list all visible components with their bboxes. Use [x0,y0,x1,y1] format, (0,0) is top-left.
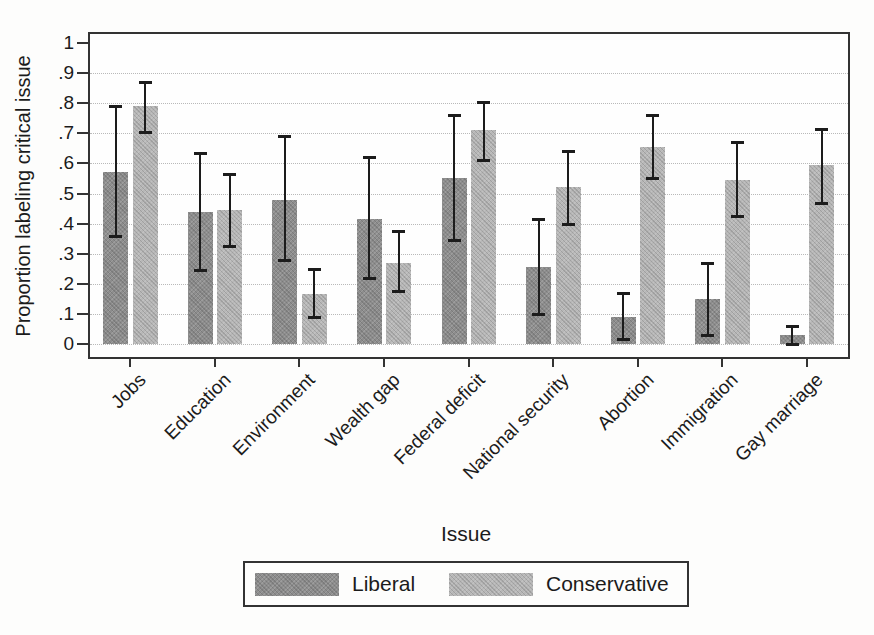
error-bar-liberal [453,115,455,240]
error-bar-conservative [821,129,823,203]
error-bar-cap-bottom [731,215,744,218]
error-bar-cap-bottom [617,338,630,341]
y-tick [77,42,88,44]
plot-area [88,32,850,359]
error-bar-cap-top [109,105,122,108]
x-category-label: Immigration [572,369,742,539]
y-gridline [90,133,848,134]
y-tick-label: .6 [0,152,74,174]
x-tick [552,359,554,367]
y-tick [77,132,88,134]
error-bar-cap-bottom [278,259,291,262]
y-tick [77,193,88,195]
error-bar-cap-bottom [786,343,799,346]
error-bar-liberal [199,153,201,270]
x-category-label: Environment [149,369,319,539]
error-bar-liberal [368,157,370,277]
y-tick-label: .1 [0,303,74,325]
y-tick [77,343,88,345]
error-bar-liberal [538,219,540,314]
y-tick-label: .8 [0,92,74,114]
error-bar-cap-top [448,114,461,117]
error-bar-conservative [229,174,231,246]
error-bar-cap-top [815,128,828,131]
x-category-label: National security [402,369,572,539]
error-bar-conservative [652,115,654,178]
error-bar-cap-top [308,268,321,271]
y-tick [77,223,88,225]
legend-label-liberal: Liberal [352,572,415,596]
error-bar-cap-top [701,262,714,265]
y-tick-label: .2 [0,273,74,295]
error-bar-cap-top [194,152,207,155]
error-bar-liberal [622,293,624,340]
error-bar-cap-bottom [109,235,122,238]
x-category-label: Education [64,369,234,539]
y-tick [77,102,88,104]
x-category-label: Abortion [487,369,657,539]
legend-entry-liberal: Liberal [255,563,415,605]
error-bar-cap-bottom [223,245,236,248]
error-bar-cap-bottom [363,277,376,280]
error-bar-liberal [284,136,286,259]
legend-swatch-liberal [255,573,339,596]
error-bar-liberal [115,106,117,235]
error-bar-cap-top [731,141,744,144]
error-bar-conservative [483,102,485,161]
error-bar-conservative [313,269,315,317]
y-tick-label: .7 [0,122,74,144]
x-tick [721,359,723,367]
error-bar-cap-bottom [562,223,575,226]
error-bar-conservative [144,82,146,132]
y-gridline [90,344,848,345]
y-tick-label: .3 [0,243,74,265]
x-tick [806,359,808,367]
error-bar-cap-top [617,292,630,295]
bar-conservative [133,106,158,344]
legend-swatch-conservative [449,573,533,596]
error-bar-conservative [398,231,400,291]
figure: Proportion labeling critical issue Issue… [0,0,874,635]
x-tick [129,359,131,367]
error-bar-conservative [736,142,738,216]
error-bar-cap-top [532,218,545,221]
y-tick [77,313,88,315]
legend: Liberal Conservative [243,561,689,607]
error-bar-cap-bottom [477,159,490,162]
x-axis-title: Issue [366,522,566,546]
error-bar-cap-top [139,81,152,84]
y-gridline [90,103,848,104]
y-tick [77,253,88,255]
y-gridline [90,163,848,164]
error-bar-cap-top [786,325,799,328]
x-tick [468,359,470,367]
error-bar-cap-top [562,150,575,153]
x-tick [214,359,216,367]
error-bar-cap-bottom [139,131,152,134]
error-bar-cap-top [646,114,659,117]
x-category-label: Wealth gap [233,369,403,539]
x-tick [383,359,385,367]
error-bar-cap-bottom [701,334,714,337]
error-bar-liberal [791,326,793,344]
y-tick-label: 1 [0,32,74,54]
error-bar-cap-bottom [532,313,545,316]
error-bar-cap-bottom [815,202,828,205]
error-bar-cap-top [477,101,490,104]
y-tick [77,162,88,164]
y-tick-label: .4 [0,213,74,235]
error-bar-cap-bottom [392,290,405,293]
legend-entry-conservative: Conservative [449,563,669,605]
y-gridline [90,73,848,74]
error-bar-conservative [567,151,569,223]
x-tick [637,359,639,367]
error-bar-cap-bottom [194,269,207,272]
error-bar-cap-top [392,230,405,233]
y-tick-label: .5 [0,183,74,205]
x-tick [298,359,300,367]
legend-label-conservative: Conservative [546,572,669,596]
x-category-label: Gay marriage [656,369,826,539]
error-bar-cap-bottom [646,177,659,180]
error-bar-cap-bottom [308,316,321,319]
error-bar-cap-top [223,173,236,176]
